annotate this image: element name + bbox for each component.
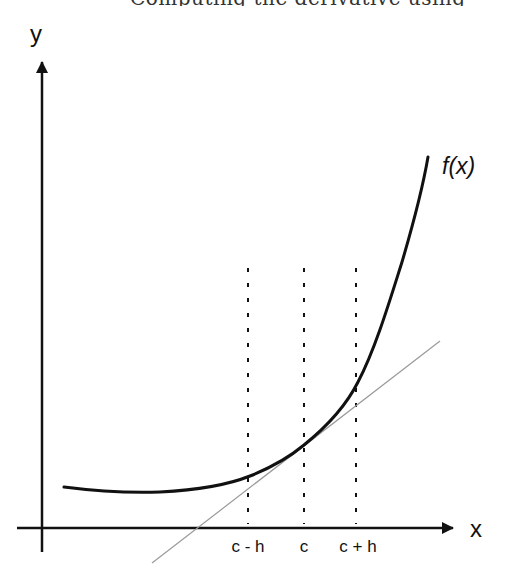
x-axis-label: x [470,515,482,542]
tick-label-c: c [300,537,309,556]
y-axis-label: y [30,20,42,47]
function-label: f(x) [442,153,475,179]
tick-label-c-plus-h: c + h [339,537,376,556]
tick-label-c-minus-h: c - h [231,537,264,556]
function-curve [64,157,428,492]
derivative-diagram: y x f(x) c - h c c + h [0,0,510,583]
